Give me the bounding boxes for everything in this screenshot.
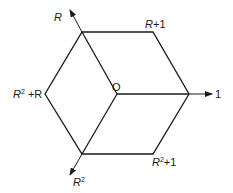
axis-r2-arrow <box>70 154 82 175</box>
r-plus-1-label: R+1 <box>145 18 166 30</box>
edge-o-to-r2 <box>82 94 117 154</box>
r2-plus-1-base: R <box>152 156 160 168</box>
r-axis-label: R <box>54 11 62 23</box>
r2-plus-r-rest: +R <box>25 88 42 100</box>
origin-label: O <box>112 81 121 93</box>
hexagon-diagram: O R 1 R+1 R2 +R R2+1 R2 <box>0 0 233 193</box>
r2-plus-1-label: R2+1 <box>152 156 176 168</box>
r-plus-1-rest: +1 <box>153 18 166 30</box>
r-plus-1-base: R <box>145 18 153 30</box>
axis-r-arrow <box>70 10 82 32</box>
r2-plus-r-label: R2 +R <box>13 88 42 100</box>
r2-axis-label: R2 <box>73 176 85 188</box>
one-axis-label: 1 <box>215 88 221 100</box>
r2-axis-exp: 2 <box>81 176 85 183</box>
r2-plus-1-rest: +1 <box>164 156 177 168</box>
r2-plus-r-base: R <box>13 88 21 100</box>
r2-axis-base: R <box>73 176 81 188</box>
